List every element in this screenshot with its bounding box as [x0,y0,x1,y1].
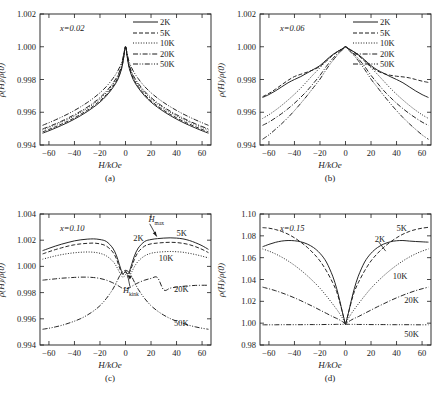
curve-20K [263,47,429,126]
legend-label: 50K [160,59,175,69]
legend-line-5K [132,28,159,38]
curve-2K [43,47,209,133]
y-axis-label: ρ(H)/ρ(0) [216,62,226,96]
legend: 2K5K10K20K50K [352,17,395,70]
legend-line-50K [132,59,159,69]
legend-label: 20K [380,49,395,59]
y-axis-label: ρ(H)/ρ(0) [0,62,6,96]
legend-item-20K: 20K [352,49,395,60]
y-tick-label: 1.06 [241,253,256,263]
annotation-subscript: kink [129,291,139,297]
x-tick-label: −60 [262,348,275,358]
x-axis-label: H/kOe [220,360,440,370]
curve-20K [43,47,209,129]
x-tick-label: −20 [93,148,106,158]
y-tick-label: 0.994 [17,140,37,150]
y-tick-label: 0.996 [17,314,36,324]
x-tick-label: 40 [172,348,181,358]
x-tick-label: −40 [68,148,81,158]
x-tick-label: −20 [313,148,326,158]
legend-line-20K [352,49,379,59]
panel-b: −60−40−2002040600.9940.9960.9981.0001.00… [220,0,440,199]
x-tick-label: 0 [123,148,127,158]
curve-50K [43,47,209,126]
curve-label-20K: 20K [174,284,189,294]
legend-line-10K [352,38,379,48]
y-tick-label: 0.998 [17,75,36,85]
x-tick-label: 20 [367,348,376,358]
x-tick-label: 20 [147,148,156,158]
panel-caption-b: (b) [220,173,440,183]
x-axis-label: H/kOe [220,160,440,170]
y-axis-label: ρ(H)/ρ(0) [0,262,6,296]
legend-item-2K: 2K [352,17,395,28]
composition-annotation-d: x=0.15 [280,223,304,233]
y-tick-label: 1.000 [17,261,36,271]
curve-5K [43,47,209,132]
panel-c: −60−40−2002040600.9940.9960.9981.0001.00… [0,200,220,399]
x-tick-label: −40 [288,148,301,158]
legend-label: 5K [160,28,170,38]
legend-line-20K [132,49,159,59]
legend-item-10K: 10K [132,38,175,49]
y-tick-label: 1.002 [17,235,36,245]
y-tick-label: 1.002 [237,9,256,19]
curve-2K [263,241,429,325]
curve-20K [263,287,429,324]
legend-item-2K: 2K [132,17,175,28]
legend-label: 10K [380,38,395,48]
y-tick-label: 0.998 [17,288,36,298]
legend-line-2K [132,17,159,27]
y-tick-label: 1.002 [17,9,36,19]
x-tick-label: 60 [418,348,427,358]
field-annotation-kink: Hkink [123,285,139,297]
legend-label: 2K [160,17,170,27]
legend-item-50K: 50K [352,59,395,70]
y-tick-label: 0.98 [241,340,256,350]
legend-label: 20K [160,49,175,59]
curve-label-5K: 5K [177,228,187,238]
legend-item-5K: 5K [352,28,395,39]
x-axis-label: H/kOe [0,160,220,170]
x-tick-label: −60 [42,148,55,158]
x-tick-label: −60 [262,148,275,158]
panel-a: −60−40−2002040600.9940.9960.9981.0001.00… [0,0,220,199]
curve-label-10K: 10K [159,253,174,263]
magnetoresistance-figure: −60−40−2002040600.9940.9960.9981.0001.00… [0,0,440,399]
legend-item-20K: 20K [132,49,175,60]
y-tick-label: 0.994 [237,140,257,150]
x-tick-label: 20 [147,348,156,358]
y-axis-label: ρ(H)/ρ(0) [216,262,226,296]
y-tick-label: 1.000 [17,42,36,52]
y-tick-label: 1.10 [241,209,256,219]
curve-label-10K: 10K [393,271,408,281]
y-axis-label-text: ρ(H)/ρ(0) [216,62,226,96]
legend-line-50K [352,59,379,69]
composition-annotation-b: x=0.06 [280,23,304,33]
curve-label-50K: 50K [404,329,419,339]
y-tick-label: 1.00 [241,318,256,328]
panel-caption-c: (c) [0,373,220,383]
curve-label-2K: 2K [133,233,143,243]
y-tick-label: 0.996 [17,107,36,117]
curve-5K [43,242,209,274]
curve-10K [43,251,209,277]
legend-label: 50K [380,59,395,69]
x-tick-label: −40 [68,348,81,358]
y-axis-label-text: ρ(H)/ρ(0) [216,262,226,296]
legend-line-5K [352,28,379,38]
annotation-subscript: max [155,220,164,226]
curve-label-2K: 2K [375,234,385,244]
legend-label: 5K [380,28,390,38]
field-annotation-max: Hmax [148,214,164,226]
y-axis-label-text: ρ(H)/ρ(0) [0,62,6,96]
legend-line-10K [132,38,159,48]
x-tick-label: 60 [418,148,427,158]
y-axis-label-text: ρ(H)/ρ(0) [0,262,6,296]
curve-10K [263,249,429,324]
x-tick-label: 60 [198,348,207,358]
x-tick-label: 40 [392,148,401,158]
x-tick-label: −20 [313,348,326,358]
x-tick-label: 0 [343,148,347,158]
panel-caption-a: (a) [0,173,220,183]
